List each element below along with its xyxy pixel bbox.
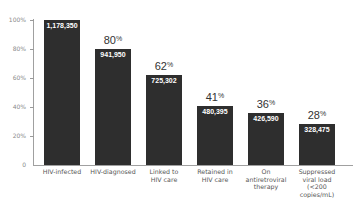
y-tick-mark xyxy=(30,136,34,137)
y-tick-label: 60% xyxy=(2,74,26,81)
bar: 941,950 xyxy=(95,49,131,165)
y-tick-label: 0 xyxy=(2,161,26,168)
bar: 1,178,350 xyxy=(44,20,80,165)
category-label: HIV-infected xyxy=(34,168,90,176)
x-axis xyxy=(33,165,353,166)
category-label: Suppressed viral load (<200 copies/mL) xyxy=(289,168,345,198)
bar-percent-label: 62% xyxy=(139,60,189,72)
y-tick-mark xyxy=(30,20,34,21)
bar-count-label: 480,395 xyxy=(197,108,233,115)
y-tick-label: 20% xyxy=(2,132,26,139)
y-tick-mark xyxy=(30,78,34,79)
bar: 725,302 xyxy=(146,75,182,165)
bar: 480,395 xyxy=(197,106,233,165)
bar: 328,475 xyxy=(299,124,335,165)
bar-count-label: 328,475 xyxy=(299,126,335,133)
bar-count-label: 426,590 xyxy=(248,115,284,122)
bar: 426,590 xyxy=(248,113,284,165)
bar-count-label: 1,178,350 xyxy=(44,22,80,29)
bar-percent-label: 41% xyxy=(190,91,240,103)
y-tick-mark xyxy=(30,49,34,50)
category-label: Linked to HIV care xyxy=(136,168,192,183)
bar-count-label: 725,302 xyxy=(146,77,182,84)
category-label: Retained in HIV care xyxy=(187,168,243,183)
category-label: HIV-diagnosed xyxy=(85,168,141,176)
hiv-care-cascade-chart: 020%40%60%80%100% 1,178,350HIV-infected9… xyxy=(0,0,361,198)
category-label: On antiretroviral therapy xyxy=(238,168,294,191)
y-tick-mark xyxy=(30,107,34,108)
y-tick-label: 40% xyxy=(2,103,26,110)
bar-count-label: 941,950 xyxy=(95,51,131,58)
bar-percent-label: 80% xyxy=(88,34,138,46)
y-tick-label: 80% xyxy=(2,45,26,52)
bar-percent-label: 28% xyxy=(292,109,342,121)
bar-percent-label: 36% xyxy=(241,98,291,110)
y-tick-label: 100% xyxy=(2,16,26,23)
y-axis xyxy=(33,19,34,165)
